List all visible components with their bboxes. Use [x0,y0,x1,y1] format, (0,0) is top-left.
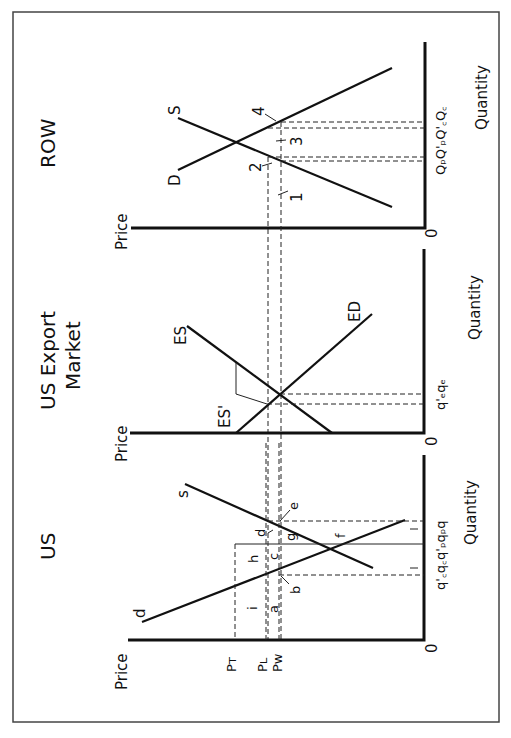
us-q-labels: q'꜀q꜀q'ₚqₚq [433,520,448,590]
row-origin: 0 [423,228,441,238]
ed-curve [236,314,372,433]
row-quantity-label: Quantity [473,65,491,130]
area-b: b [288,586,303,594]
us-quantity-label: Quantity [462,480,480,545]
row-point-1: 1 [288,192,306,202]
row-demand-curve [178,68,392,170]
area-g: g [283,533,298,541]
es-label: ES [172,326,190,345]
us-supply-label: s [174,490,192,498]
us-panel: US Price Quantity 0 Pᴛ Pʟ Pᴡ a b c d e f… [36,440,480,690]
export-quantity-label: Quantity [466,275,484,340]
row-q-labels: QₚQ'ₚQ'꜀Q꜀ [433,106,448,175]
export-title-line2: Market [61,321,85,390]
export-q-labels: q'ₑqₑ [433,379,448,410]
export-origin: 0 [423,436,441,446]
export-title-line1: US Export [36,311,60,410]
row-supply-label: S [166,105,184,115]
row-point-4: 4 [250,106,268,116]
row-supply-curve [178,118,392,207]
us-title: US [36,533,60,560]
us-origin: 0 [423,643,441,653]
row-point-3: 3 [288,136,306,146]
area-c: c [266,553,281,560]
export-price-label: Price [113,425,131,462]
us-price-label: Price [113,653,131,690]
es-curve [187,326,332,433]
area-a: a [266,605,281,613]
row-pointer-3 [276,140,286,141]
row-axes [131,42,425,228]
area-h: h [246,555,261,563]
area-e: e [286,502,301,510]
us-price-pt: Pᴛ [224,656,239,672]
row-point-2: 2 [247,162,265,172]
economics-diagram: ROW Price Quantity 0 D S 4 3 2 1 QₚQ'ₚQ'… [0,0,511,738]
es-prime-bracket [236,363,267,404]
us-pointer-d [268,530,273,533]
area-d: d [253,529,268,537]
us-demand-label: d [131,608,149,618]
area-i: i [245,606,260,610]
row-price-label: Price [113,213,131,250]
area-f: f [333,533,348,538]
es-prime-label: ES' [216,405,234,428]
export-panel: US Export Market Price Quantity 0 ES ES'… [36,249,484,462]
row-title: ROW [36,118,60,168]
us-price-pl: Pʟ [255,657,270,672]
us-pointer-b [281,576,289,584]
us-price-pw: Pᴡ [270,653,285,672]
row-pointer-1 [278,191,288,195]
ed-label: ED [346,301,364,322]
row-demand-label: D [166,174,184,186]
